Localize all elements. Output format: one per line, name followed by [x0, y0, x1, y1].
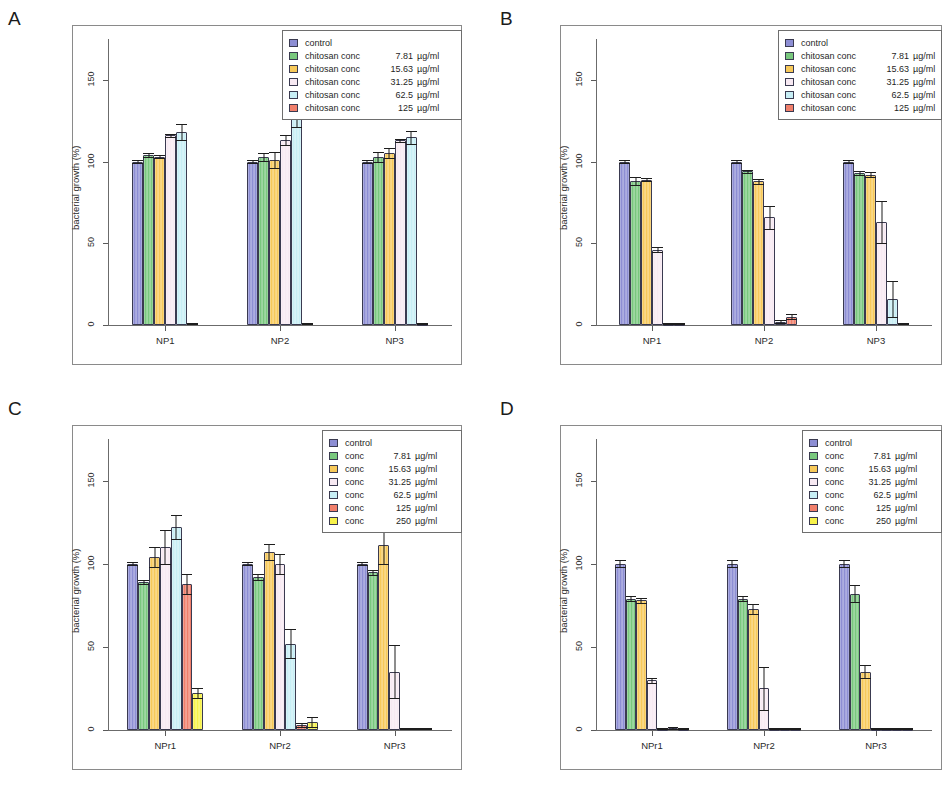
legend-item-D-3[interactable]: conc31.25µg/ml	[809, 475, 934, 488]
legend-swatch-C-4	[329, 491, 338, 499]
legend-item-A-0[interactable]: control	[289, 36, 454, 49]
legend-series-name: control	[801, 38, 875, 48]
legend-label-B-1: chitosan conc7.81µg/ml	[801, 51, 935, 61]
error-bar-A-NP2-s3	[280, 135, 291, 145]
y-tick-label-C-0: 0	[86, 718, 96, 740]
error-bar-C-NPr2-s2	[264, 544, 275, 561]
bar-A-NP2-s2	[269, 160, 280, 325]
x-tick-mark-A-NP1	[165, 326, 166, 331]
error-bar-B-NP2-s5	[786, 314, 797, 319]
legend-label-A-4: chitosan conc62.5µg/ml	[305, 90, 439, 100]
legend-series-unit: µg/ml	[895, 451, 917, 461]
error-bar-C-NPr1-s2	[149, 547, 160, 567]
legend-series-value: 31.25	[857, 477, 891, 487]
y-tick-mark-B-150	[591, 80, 596, 81]
legend-series-value: 250	[377, 516, 411, 526]
legend-series-unit: µg/ml	[417, 51, 439, 61]
legend-item-B-3[interactable]: chitosan conc31.25µg/ml	[785, 75, 934, 88]
error-bar-D-NPr2-s3	[759, 667, 770, 710]
bar-D-NPr3-s1	[850, 594, 861, 730]
error-bar-D-NPr3-s2	[860, 665, 871, 678]
legend-series-name: chitosan conc	[801, 103, 875, 113]
legend-item-B-0[interactable]: control	[785, 36, 934, 49]
bar-C-NPr1-s5	[182, 584, 193, 730]
error-bar-C-NPr1-s4	[171, 515, 182, 538]
legend-item-D-5[interactable]: conc125µg/ml	[809, 501, 934, 514]
legend-item-C-6[interactable]: conc250µg/ml	[329, 514, 454, 527]
x-tick-mark-D-NPr1	[652, 731, 653, 736]
bar-A-NP2-s1	[258, 157, 269, 325]
legend-series-name: conc	[345, 477, 377, 487]
legend-series-name: conc	[345, 490, 377, 500]
legend-item-C-5[interactable]: conc125µg/ml	[329, 501, 454, 514]
legend-series-value: 125	[377, 503, 411, 513]
y-axis-line-D	[596, 439, 597, 730]
error-bar-B-NP2-s1	[742, 170, 753, 173]
error-bar-A-NP2-s5	[302, 323, 313, 324]
legend-A: controlchitosan conc7.81µg/mlchitosan co…	[282, 30, 462, 120]
error-bar-A-NP1-s3	[165, 134, 176, 137]
legend-series-name: conc	[345, 516, 377, 526]
bar-A-NP3-s3	[395, 140, 406, 325]
legend-series-value: 7.81	[875, 51, 909, 61]
legend-item-A-1[interactable]: chitosan conc7.81µg/ml	[289, 49, 454, 62]
error-bar-C-NPr2-s0	[242, 562, 253, 565]
legend-item-B-2[interactable]: chitosan conc15.63µg/ml	[785, 62, 934, 75]
x-tick-label-B-NP3: NP3	[867, 335, 885, 346]
legend-item-C-2[interactable]: conc15.63µg/ml	[329, 462, 454, 475]
bar-A-NP3-s2	[384, 153, 395, 325]
legend-item-B-4[interactable]: chitosan conc62.5µg/ml	[785, 88, 934, 101]
legend-series-unit: µg/ml	[417, 64, 439, 74]
legend-item-D-0[interactable]: control	[809, 436, 934, 449]
legend-item-C-4[interactable]: conc62.5µg/ml	[329, 488, 454, 501]
error-bar-B-NP1-s0	[619, 160, 630, 163]
legend-item-A-5[interactable]: chitosan conc125µg/ml	[289, 101, 454, 114]
legend-series-unit: µg/ml	[415, 516, 437, 526]
y-tick-label-D-150: 150	[574, 469, 584, 491]
legend-item-A-3[interactable]: chitosan conc31.25µg/ml	[289, 75, 454, 88]
legend-swatch-A-2	[289, 65, 298, 73]
error-bar-B-NP3-s5	[898, 323, 909, 324]
error-bar-A-NP2-s2	[269, 152, 280, 168]
error-bar-B-NP1-s1	[630, 177, 641, 185]
legend-item-C-1[interactable]: conc7.81µg/ml	[329, 449, 454, 462]
legend-label-A-3: chitosan conc31.25µg/ml	[305, 77, 439, 87]
error-bar-B-NP2-s0	[731, 160, 742, 163]
y-tick-mark-A-0	[103, 325, 108, 326]
legend-item-C-3[interactable]: conc31.25µg/ml	[329, 475, 454, 488]
error-bar-D-NPr2-s1	[738, 596, 749, 601]
error-bar-A-NP1-s0	[132, 160, 143, 163]
bar-B-NP3-s1	[854, 173, 865, 325]
bar-A-NP1-s3	[165, 135, 176, 325]
legend-series-name: chitosan conc	[305, 77, 379, 87]
legend-item-A-4[interactable]: chitosan conc62.5µg/ml	[289, 88, 454, 101]
legend-item-D-6[interactable]: conc250µg/ml	[809, 514, 934, 527]
legend-swatch-B-1	[785, 52, 794, 60]
y-tick-label-A-150: 150	[86, 68, 96, 90]
legend-swatch-D-5	[809, 504, 818, 512]
error-bar-A-NP1-s4	[176, 124, 187, 140]
legend-series-name: control	[345, 438, 377, 448]
error-bar-D-NPr1-s3	[647, 678, 658, 683]
legend-item-C-0[interactable]: control	[329, 436, 454, 449]
bar-C-NPr1-s0	[127, 564, 138, 730]
legend-item-D-4[interactable]: conc62.5µg/ml	[809, 488, 934, 501]
x-tick-label-A-NP3: NP3	[385, 335, 403, 346]
bar-B-NP1-s1	[630, 181, 641, 325]
error-bar-C-NPr1-s3	[160, 530, 171, 563]
legend-item-D-2[interactable]: conc15.63µg/ml	[809, 462, 934, 475]
x-tick-label-A-NP1: NP1	[156, 335, 174, 346]
legend-item-D-1[interactable]: conc7.81µg/ml	[809, 449, 934, 462]
legend-series-value: 31.25	[875, 77, 909, 87]
figure-canvas: A050100150bacterial growth (%)NP1NP2NP3c…	[0, 0, 942, 793]
legend-item-B-5[interactable]: chitosan conc125µg/ml	[785, 101, 934, 114]
error-bar-D-NPr3-s6	[902, 728, 913, 729]
y-tick-label-B-50: 50	[574, 231, 584, 253]
legend-series-unit: µg/ml	[895, 464, 917, 474]
legend-series-unit: µg/ml	[913, 77, 935, 87]
error-bar-C-NPr3-s3	[389, 645, 400, 698]
legend-item-B-1[interactable]: chitosan conc7.81µg/ml	[785, 49, 934, 62]
legend-item-A-2[interactable]: chitosan conc15.63µg/ml	[289, 62, 454, 75]
error-bar-B-NP3-s3	[876, 201, 887, 243]
legend-swatch-D-1	[809, 452, 818, 460]
